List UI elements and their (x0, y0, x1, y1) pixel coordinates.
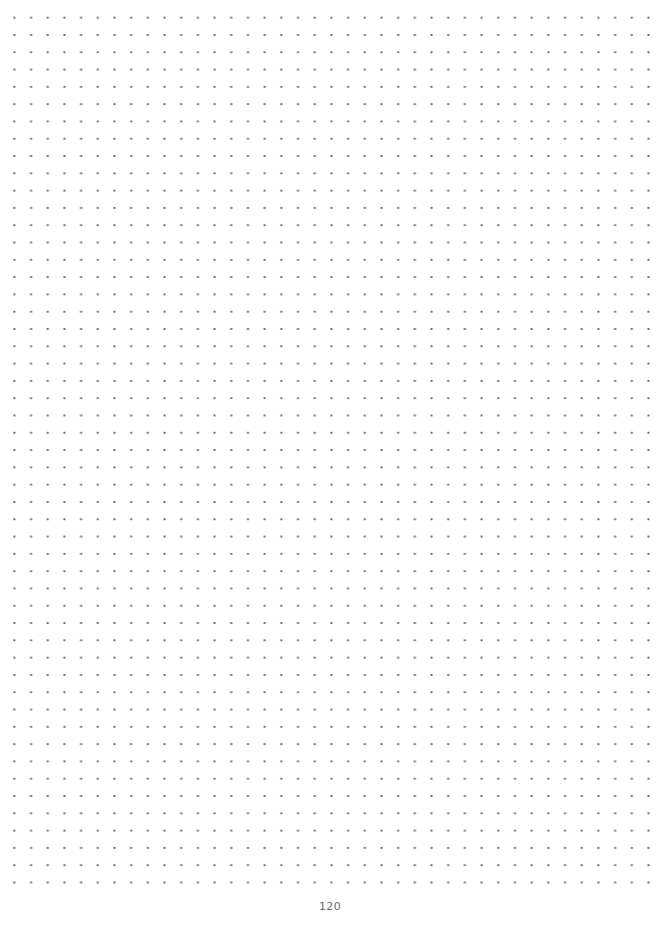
dot-grid (6, 9, 656, 891)
page-number: 120 (0, 900, 660, 913)
notebook-page: 120 (0, 0, 660, 930)
